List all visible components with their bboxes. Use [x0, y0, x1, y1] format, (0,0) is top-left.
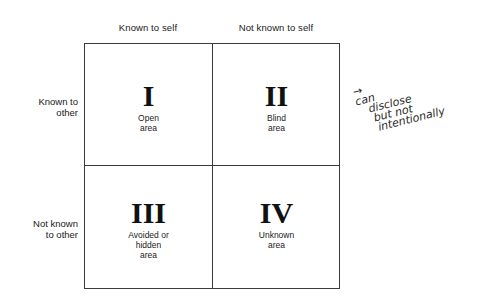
column-header-not-known-to-self: Not known to self — [212, 22, 340, 33]
quadrant-numeral: I — [85, 82, 212, 110]
quadrant-unknown-area: IV Unknown area — [213, 199, 340, 250]
quadrant-numeral: IV — [213, 199, 340, 227]
row-header-line: to other — [0, 229, 78, 240]
quadrant-numeral: III — [85, 199, 212, 227]
quadrant-label-line: area — [85, 250, 212, 260]
row-header-not-known-to-other: Not known to other — [0, 218, 78, 240]
row-header-line: Not known — [0, 218, 78, 229]
quadrant-label-line: Avoided or — [85, 230, 212, 240]
quadrant-label-line: Blind — [213, 113, 340, 123]
handwritten-annotation: →can disclose but not intentionally — [352, 58, 480, 146]
quadrant-label-line: area — [213, 240, 340, 250]
quadrant-label-line: hidden — [85, 240, 212, 250]
quadrant-open-area: I Open area — [85, 82, 212, 133]
quadrant-label-line: area — [213, 123, 340, 133]
quadrant-hidden-area: III Avoided or hidden area — [85, 199, 212, 260]
quadrant-label-line: area — [85, 123, 212, 133]
horizontal-divider — [85, 165, 339, 166]
quadrant-label-line: Unknown — [213, 230, 340, 240]
row-header-line: other — [0, 107, 78, 118]
quadrant-numeral: II — [213, 82, 340, 110]
quadrant-label-line: Open — [85, 113, 212, 123]
quadrant-blind-area: II Blind area — [213, 82, 340, 133]
row-header-known-to-other: Known to other — [0, 96, 78, 118]
column-header-known-to-self: Known to self — [84, 22, 212, 33]
row-header-line: Known to — [0, 96, 78, 107]
quadrant-grid: I Open area II Blind area III Avoided or… — [84, 43, 340, 289]
